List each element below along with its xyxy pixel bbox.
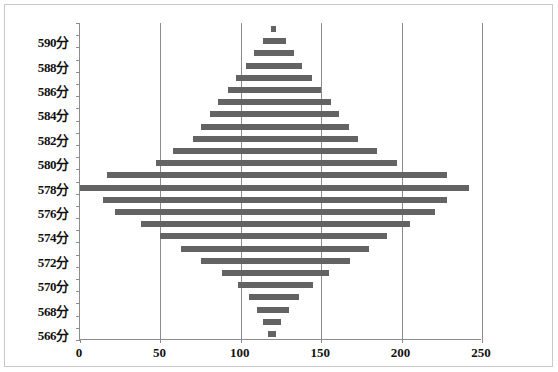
x-axis-tick-label: 250: [471, 345, 491, 361]
y-axis-tick-label: 566分: [38, 324, 69, 343]
bar-587分: [236, 75, 312, 81]
y-tick: [76, 255, 80, 256]
bar-578分: [80, 185, 469, 191]
x-tick-150: [321, 339, 322, 343]
bar-588分: [246, 63, 302, 69]
bar-591分: [271, 26, 276, 32]
y-tick: [76, 84, 80, 85]
y-tick: [76, 35, 80, 36]
y-axis-tick-label: 590分: [38, 32, 69, 51]
bar-576分: [115, 209, 435, 215]
y-tick: [76, 316, 80, 317]
y-axis-labels: 590分588分586分584分582分580分578分576分574分572分…: [5, 23, 75, 340]
y-tick: [76, 206, 80, 207]
y-tick: [76, 72, 80, 73]
y-tick: [76, 242, 80, 243]
y-axis-tick-label: 568分: [38, 300, 69, 319]
bar-571分: [222, 270, 330, 276]
y-tick: [76, 182, 80, 183]
bar-568分: [257, 307, 289, 313]
y-tick: [76, 108, 80, 109]
y-tick: [76, 121, 80, 122]
y-tick: [76, 96, 80, 97]
y-axis-tick-label: 572分: [38, 251, 69, 270]
y-tick: [76, 267, 80, 268]
chart-page: 590分588分586分584分582分580分578分576分574分572分…: [0, 0, 558, 372]
bar-585分: [218, 99, 331, 105]
bar-572分: [201, 258, 351, 264]
x-tick-200: [402, 339, 403, 343]
y-axis-tick-label: 586分: [38, 81, 69, 100]
x-tick-100: [241, 339, 242, 343]
bar-575分: [141, 221, 410, 227]
y-tick: [76, 328, 80, 329]
chart-frame: 590分588分586分584分582分580分578分576分574分572分…: [4, 4, 553, 367]
bar-574分: [160, 233, 387, 239]
gridline-x-250: [482, 23, 483, 339]
bar-579分: [107, 172, 446, 178]
bar-582分: [193, 136, 359, 142]
y-axis-tick-label: 576分: [38, 202, 69, 221]
x-tick-0: [80, 339, 81, 343]
bar-567分: [263, 319, 281, 325]
bar-566分: [268, 331, 276, 337]
bar-573分: [181, 246, 369, 252]
bar-583分: [201, 124, 349, 130]
x-axis-tick-label: 100: [230, 345, 250, 361]
x-tick-50: [160, 339, 161, 343]
y-axis-tick-label: 570分: [38, 276, 69, 295]
y-tick: [76, 291, 80, 292]
y-tick: [76, 23, 80, 24]
gridline-x-200: [402, 23, 403, 339]
x-axis-tick-label: 50: [153, 345, 166, 361]
y-axis-tick-label: 580分: [38, 154, 69, 173]
bar-581分: [173, 148, 377, 154]
y-tick: [76, 47, 80, 48]
bar-569分: [249, 294, 299, 300]
gridline-x-50: [160, 23, 161, 339]
bar-589分: [254, 50, 294, 56]
y-tick: [76, 169, 80, 170]
y-axis-tick-label: 578分: [38, 178, 69, 197]
y-tick: [76, 303, 80, 304]
y-tick: [76, 194, 80, 195]
x-axis-labels: 050100150200250: [79, 345, 481, 369]
y-tick: [76, 218, 80, 219]
gridline-x-100: [241, 23, 242, 339]
x-axis-tick-label: 150: [310, 345, 330, 361]
y-tick: [76, 60, 80, 61]
y-axis-tick-label: 584分: [38, 105, 69, 124]
y-tick: [76, 145, 80, 146]
gridline-x-150: [321, 23, 322, 339]
x-axis-tick-label: 0: [76, 345, 83, 361]
x-axis-tick-label: 200: [391, 345, 411, 361]
y-tick: [76, 133, 80, 134]
bar-577分: [103, 197, 447, 203]
bar-584分: [210, 111, 339, 117]
bar-586分: [228, 87, 321, 93]
y-axis-tick-label: 574分: [38, 227, 69, 246]
plot-area: [79, 23, 481, 340]
y-axis-tick-label: 582分: [38, 129, 69, 148]
bar-590分: [263, 38, 286, 44]
y-tick: [76, 340, 80, 341]
bar-570分: [238, 282, 314, 288]
x-tick-250: [482, 339, 483, 343]
y-tick: [76, 279, 80, 280]
y-axis-tick-label: 588分: [38, 56, 69, 75]
y-tick: [76, 230, 80, 231]
bar-580分: [156, 160, 397, 166]
y-tick: [76, 157, 80, 158]
